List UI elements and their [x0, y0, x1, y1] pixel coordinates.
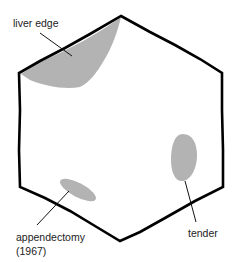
liver-edge-label: liver edge — [13, 17, 59, 30]
appendectomy-scar — [57, 174, 99, 205]
appendectomy-label: appendectomy — [16, 231, 85, 244]
tender-region — [171, 134, 197, 181]
appendectomy-year-label: (1967) — [16, 245, 46, 258]
abdomen-diagram — [0, 0, 238, 262]
tender-label: tender — [188, 227, 218, 240]
